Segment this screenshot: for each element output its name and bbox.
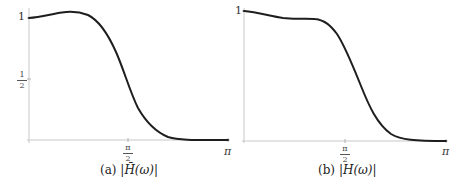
x-tick-label-half-pi-b: π 2 <box>340 145 350 164</box>
frac-num: 1 <box>19 70 24 79</box>
curve-h-bar <box>29 12 228 140</box>
caption-prefix: (a) <box>100 163 117 177</box>
plot-area-a <box>0 0 235 189</box>
frac-den: 2 <box>125 154 130 163</box>
caption-prefix: (b) <box>318 163 335 177</box>
plot-area-b <box>235 0 470 189</box>
caption-expression: |H̄(ω)| <box>120 163 158 177</box>
caption-b: (b) |H(ω)| <box>318 163 377 177</box>
y-tick-label-half-a: 1 2 <box>17 71 27 90</box>
curve-h <box>244 11 446 141</box>
x-tick-label-half-pi-a: π 2 <box>123 144 133 163</box>
chart-panel-a: 1 1 2 π 2 π (a) |H̄(ω)| <box>0 0 235 189</box>
caption-a: (a) |H̄(ω)| <box>100 163 158 177</box>
y-tick-label-1-a: 1 <box>18 11 25 22</box>
frac-den: 2 <box>19 81 24 90</box>
y-tick-label-1-b: 1 <box>235 5 242 16</box>
frac-num: π <box>342 144 347 153</box>
frac-num: π <box>125 143 130 152</box>
caption-expression: |H(ω)| <box>339 163 377 177</box>
x-tick-label-pi-a: π <box>224 146 231 157</box>
x-tick-label-pi-b: π <box>442 146 449 157</box>
chart-panel-b: 1 π 2 π (b) |H(ω)| <box>235 0 470 189</box>
